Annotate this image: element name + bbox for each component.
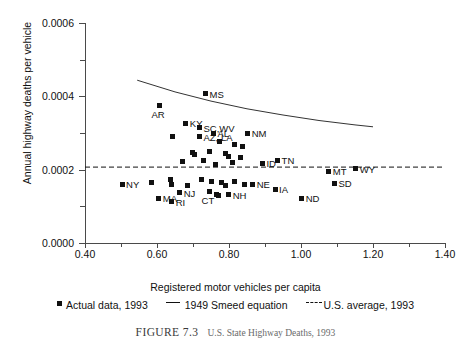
data-point-ct <box>207 189 212 194</box>
data-point <box>185 183 190 188</box>
legend-label: U.S. average, 1993 <box>324 299 414 311</box>
data-point <box>217 139 222 144</box>
data-point-label: MT <box>333 167 347 177</box>
legend-solid-line-icon <box>166 302 180 303</box>
data-point <box>192 152 197 157</box>
data-point-label: CT <box>202 196 215 206</box>
y-tick-label: 0.0000 <box>0 238 74 249</box>
y-axis-title: Annual highway deaths per vehicle <box>21 8 33 198</box>
data-point-sc-wv <box>197 125 202 130</box>
data-point <box>238 155 243 160</box>
data-point <box>230 160 235 165</box>
caption-number: FIGURE 7.3 <box>136 326 199 338</box>
data-point <box>232 179 237 184</box>
data-point <box>209 179 214 184</box>
x-tick-minor <box>121 243 122 247</box>
legend-square-marker-icon <box>57 301 62 306</box>
data-point <box>242 182 247 187</box>
data-point-ny <box>120 182 125 187</box>
data-point-label: NM <box>252 129 267 139</box>
data-point-mt <box>326 169 331 174</box>
x-tick-label: 0.40 <box>60 249 110 260</box>
caption-text: U.S. State Highway Deaths, 1993 <box>207 328 335 338</box>
data-point <box>232 142 237 147</box>
data-point-label: RI <box>176 198 186 208</box>
data-point <box>216 193 221 198</box>
data-point <box>240 144 245 149</box>
y-axis-line <box>85 23 86 244</box>
data-point-ky <box>183 121 188 126</box>
data-point-label: MS <box>210 90 224 100</box>
data-point-az--la <box>197 134 202 139</box>
legend-dashed-line-icon <box>306 302 322 303</box>
data-point-label: NJ <box>184 189 196 199</box>
data-point-tn <box>275 158 280 163</box>
data-point <box>169 182 174 187</box>
chart-legend: Actual data, 19931949 Smeed equationU.S.… <box>0 297 471 311</box>
data-point-label: NY <box>126 180 139 190</box>
data-point-label: ND <box>306 194 320 204</box>
data-point <box>149 180 154 185</box>
y-tick-major <box>79 23 85 24</box>
x-tick-minor <box>337 243 338 247</box>
data-point <box>180 159 185 164</box>
data-point-ma <box>156 196 161 201</box>
x-tick-label: 1.20 <box>348 249 398 260</box>
x-tick-minor <box>193 243 194 247</box>
data-point-label: SD <box>338 179 351 189</box>
x-tick-label: 1.40 <box>420 249 470 260</box>
data-point-ms <box>203 91 208 96</box>
y-tick-major <box>79 96 85 97</box>
y-tick-minor <box>80 206 85 207</box>
data-point-label: TN <box>282 156 295 166</box>
data-point <box>223 183 228 188</box>
data-point-nj <box>177 190 182 195</box>
data-point <box>170 134 175 139</box>
data-point-label: NH <box>233 191 247 201</box>
x-tick-minor <box>265 243 266 247</box>
data-point-nm <box>245 131 250 136</box>
data-point <box>213 162 218 167</box>
data-point-id <box>260 161 265 166</box>
data-point <box>207 149 212 154</box>
x-axis-title: Registered motor vehicles per capita <box>0 281 471 293</box>
x-tick-label: 1.00 <box>276 249 326 260</box>
x-tick-label: 0.80 <box>204 249 254 260</box>
data-point-nd <box>299 196 304 201</box>
y-tick-label: 0.0002 <box>0 165 74 176</box>
data-point-nh <box>226 192 231 197</box>
data-point-label: IA <box>279 185 288 195</box>
legend-label: 1949 Smeed equation <box>185 299 288 311</box>
y-tick-minor <box>80 60 85 61</box>
x-tick-label: 0.60 <box>132 249 182 260</box>
legend-label: Actual data, 1993 <box>66 299 148 311</box>
data-point-ia <box>273 187 278 192</box>
figure-caption: FIGURE 7.3U.S. State Highway Deaths, 199… <box>0 322 471 340</box>
data-point-ar <box>157 103 162 108</box>
data-point-label: AR <box>152 110 165 120</box>
legend-item: Actual data, 1993 <box>57 298 148 311</box>
data-point-ri <box>169 199 174 204</box>
data-point-ne <box>250 182 255 187</box>
data-point-label: NE <box>257 180 270 190</box>
y-tick-label: 0.0006 <box>0 18 74 29</box>
data-point <box>201 158 206 163</box>
y-tick-label: 0.0004 <box>0 91 74 102</box>
data-point-label: WY <box>360 165 375 175</box>
data-point-sd <box>332 181 337 186</box>
legend-item: U.S. average, 1993 <box>306 298 414 311</box>
legend-item: 1949 Smeed equation <box>166 298 288 311</box>
y-tick-minor <box>80 133 85 134</box>
data-point <box>199 177 204 182</box>
x-tick-minor <box>409 243 410 247</box>
y-tick-major <box>79 170 85 171</box>
figure-container: 0.00000.00020.00040.0006 0.400.600.801.0… <box>0 0 471 345</box>
data-point <box>226 154 231 159</box>
data-point-wy <box>353 166 358 171</box>
